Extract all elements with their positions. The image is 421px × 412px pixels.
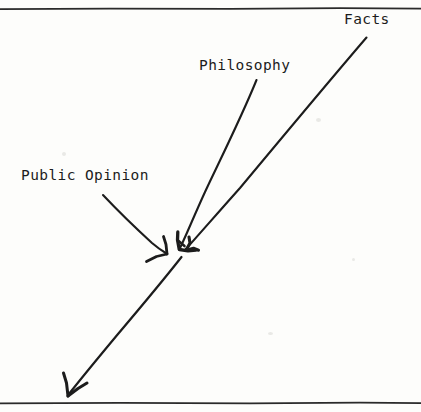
- label-public-opinion: Public Opinion: [21, 168, 149, 183]
- top-horizontal-rule: [0, 8, 421, 9]
- philosophy-arrow: [178, 80, 257, 251]
- label-philosophy: Philosophy: [199, 58, 290, 73]
- label-facts: Facts: [344, 12, 390, 27]
- public-opinion-arrow: [103, 195, 167, 262]
- bottom-horizontal-rule: [0, 403, 421, 404]
- diagram-page: Facts Philosophy Public Opinion: [0, 0, 421, 412]
- resultant-arrow: [64, 257, 182, 396]
